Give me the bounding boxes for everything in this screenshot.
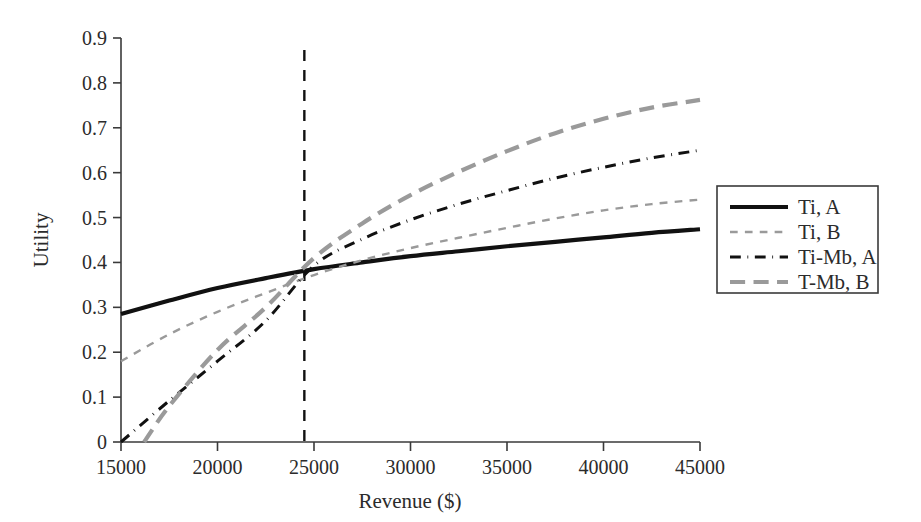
y-tick-labels: 00.10.20.30.40.50.60.70.80.9 [82, 27, 107, 453]
axes-group [113, 38, 700, 451]
series-line-ti-a [121, 229, 700, 314]
x-tick-label: 15000 [96, 456, 146, 478]
y-tick-label: 0.7 [82, 117, 107, 139]
y-tick-label: 0.2 [82, 341, 107, 363]
y-axis-title: Utility [29, 212, 53, 267]
x-tick-marks [121, 442, 700, 451]
y-tick-label: 0.4 [82, 251, 107, 273]
series-line-ti-b [121, 200, 700, 362]
series-group [121, 100, 700, 442]
legend-label-t-mb-b: T-Mb, B [798, 270, 870, 294]
x-tick-label: 20000 [193, 456, 243, 478]
x-axis-title: Revenue ($) [358, 489, 461, 513]
y-tick-label: 0.3 [82, 296, 107, 318]
legend-label-ti-mb-a: Ti-Mb, A [798, 245, 877, 269]
y-tick-label: 0.8 [82, 72, 107, 94]
legend-label-ti-a: Ti, A [798, 195, 841, 219]
y-tick-label: 0.9 [82, 27, 107, 49]
x-tick-label: 40000 [579, 456, 629, 478]
x-tick-label: 45000 [675, 456, 725, 478]
x-tick-label: 25000 [289, 456, 339, 478]
legend-label-ti-b: Ti, B [798, 220, 840, 244]
x-tick-label: 35000 [482, 456, 532, 478]
line-chart: 00.10.20.30.40.50.60.70.80.9 15000200002… [0, 0, 921, 522]
y-tick-label: 0.1 [82, 386, 107, 408]
chart-legend[interactable]: Ti, ATi, BTi-Mb, AT-Mb, B [717, 186, 878, 294]
series-line-t-mb-b [144, 100, 700, 442]
y-tick-label: 0 [97, 431, 107, 453]
chart-figure: 00.10.20.30.40.50.60.70.80.9 15000200002… [0, 0, 921, 522]
y-tick-label: 0.6 [82, 162, 107, 184]
x-tick-label: 30000 [386, 456, 436, 478]
x-tick-labels: 15000200002500030000350004000045000 [96, 456, 725, 478]
y-tick-marks [113, 38, 121, 442]
y-tick-label: 0.5 [82, 207, 107, 229]
